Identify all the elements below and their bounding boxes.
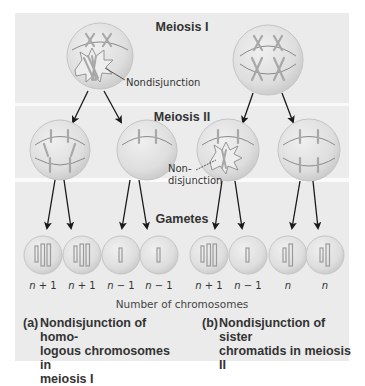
stage-title-meiosis-2: Meiosis II bbox=[154, 110, 210, 124]
gamete-4 bbox=[140, 236, 178, 274]
gamete-8 bbox=[306, 236, 344, 274]
callout-nondisjunction-b-line1: Non- bbox=[168, 163, 192, 174]
caption-a-line: logous chromosomes in bbox=[40, 344, 173, 372]
count-op: − 1 bbox=[117, 280, 135, 291]
stage-title-gametes: Gametes bbox=[156, 212, 209, 226]
caption-a-label: (a) bbox=[23, 316, 40, 386]
meiosis1-cell-a bbox=[67, 23, 133, 89]
gamete-count-5: n + 1 bbox=[195, 280, 222, 291]
gamete-3 bbox=[102, 236, 140, 274]
count-op: − 1 bbox=[244, 280, 262, 291]
gamete-2 bbox=[63, 236, 101, 274]
callout-nondisjunction-a: Nondisjunction bbox=[126, 77, 200, 88]
meiosis2-cell-3 bbox=[196, 119, 259, 181]
count-n: n bbox=[107, 280, 113, 291]
count-op: + 1 bbox=[205, 280, 223, 291]
axis-caption: Number of chromosomes bbox=[116, 298, 249, 310]
caption-a: (a) Nondisjunction of homo- logous chrom… bbox=[23, 316, 173, 386]
gamete-count-4: n − 1 bbox=[145, 280, 172, 291]
gamete-1 bbox=[24, 236, 62, 274]
count-op: + 1 bbox=[39, 280, 57, 291]
caption-b: (b) Nondisjunction of sister chromatids … bbox=[202, 316, 352, 372]
caption-b-line: chromatids in meiosis II bbox=[219, 344, 352, 372]
count-n: n bbox=[322, 280, 328, 291]
count-n: n bbox=[285, 280, 291, 291]
caption-a-line: Nondisjunction of homo- bbox=[40, 316, 173, 344]
gamete-count-2: n + 1 bbox=[68, 280, 95, 291]
count-n: n bbox=[68, 280, 74, 291]
gamete-count-6: n − 1 bbox=[234, 280, 261, 291]
caption-b-line: Nondisjunction of sister bbox=[219, 316, 352, 344]
gamete-count-1: n + 1 bbox=[29, 280, 56, 291]
count-op: + 1 bbox=[78, 280, 96, 291]
caption-a-line: meiosis I bbox=[40, 372, 173, 386]
gamete-6 bbox=[229, 236, 267, 274]
meiosis2-cell-1 bbox=[30, 120, 90, 180]
gamete-count-8: n bbox=[322, 280, 328, 291]
meiosis1-cell-b bbox=[233, 25, 303, 95]
meiosis2-cell-4 bbox=[278, 119, 340, 181]
gamete-5 bbox=[190, 236, 228, 274]
gamete-count-3: n − 1 bbox=[107, 280, 134, 291]
caption-a-text: Nondisjunction of homo- logous chromosom… bbox=[40, 316, 173, 386]
count-op: − 1 bbox=[155, 280, 173, 291]
caption-b-label: (b) bbox=[202, 316, 219, 372]
gamete-count-7: n bbox=[285, 280, 291, 291]
stage-title-meiosis-1: Meiosis I bbox=[156, 20, 209, 34]
count-n: n bbox=[234, 280, 240, 291]
gamete-7 bbox=[269, 236, 307, 274]
callout-nondisjunction-b-line2: disjunction bbox=[168, 175, 222, 186]
count-n: n bbox=[29, 280, 35, 291]
count-n: n bbox=[195, 280, 201, 291]
caption-b-text: Nondisjunction of sister chromatids in m… bbox=[219, 316, 352, 372]
count-n: n bbox=[145, 280, 151, 291]
